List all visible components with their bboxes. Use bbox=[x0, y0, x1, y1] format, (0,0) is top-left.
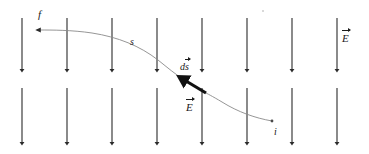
label-e-right-symbol: E bbox=[342, 33, 349, 44]
label-ds-vector: ds bbox=[180, 62, 189, 72]
label-e-middle-symbol: E bbox=[186, 102, 193, 113]
label-i: i bbox=[274, 127, 277, 137]
label-f: f bbox=[38, 9, 41, 20]
label-s: s bbox=[130, 37, 134, 47]
path-curve-s bbox=[39, 30, 272, 121]
ds-vector-segment bbox=[186, 81, 206, 93]
scan-speck bbox=[262, 10, 264, 12]
point-i-marker bbox=[271, 120, 274, 123]
electric-field-figure: f s i ds E E bbox=[0, 0, 369, 154]
field-diagram-canvas bbox=[0, 0, 369, 154]
label-ds-s: s bbox=[185, 62, 189, 72]
field-arrow-row-bottom bbox=[22, 88, 337, 143]
label-e-vector-middle: E bbox=[186, 102, 193, 113]
label-e-vector-right: E bbox=[342, 33, 349, 44]
